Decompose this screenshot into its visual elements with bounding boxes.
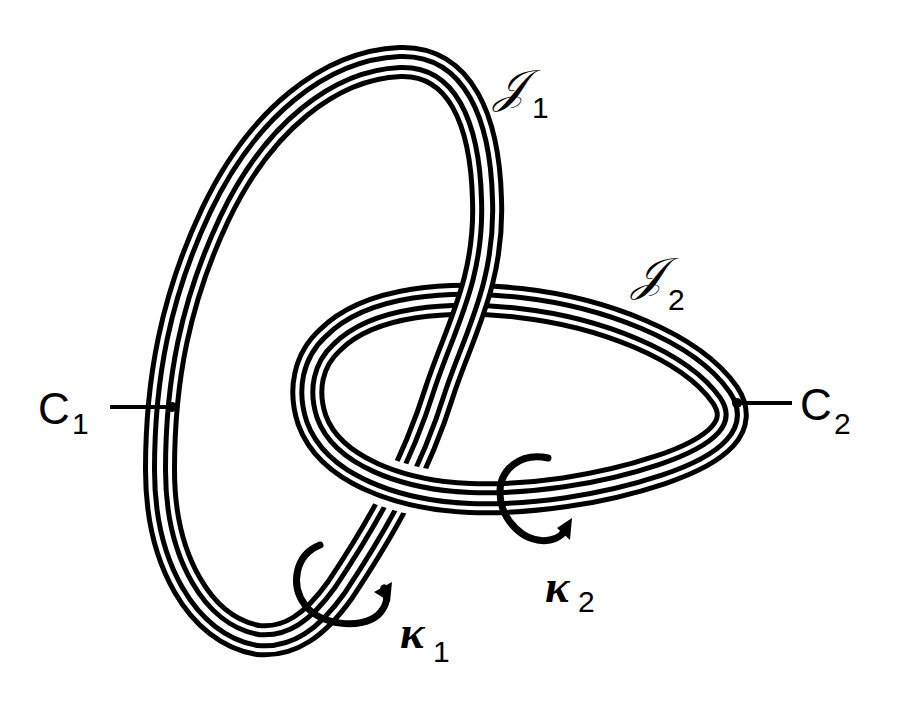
svg-text:κ: κ	[545, 561, 571, 612]
svg-text:2: 2	[578, 585, 595, 618]
svg-text:C: C	[800, 380, 832, 429]
label-j2: 𝒥 2	[630, 249, 685, 316]
svg-text:2: 2	[834, 407, 851, 440]
label-c1: C 1	[38, 384, 89, 440]
label-c2: C 2	[800, 380, 851, 440]
label-j1: 𝒥 1	[492, 61, 549, 124]
svg-text:2: 2	[668, 283, 685, 316]
label-kappa2: κ 2	[545, 561, 595, 618]
svg-text:κ: κ	[400, 607, 426, 658]
svg-text:1: 1	[433, 635, 450, 668]
svg-text:1: 1	[72, 407, 89, 440]
linked-tori-diagram: 𝒥 1 𝒥 2 C 1 C 2 κ 1 κ 2	[0, 0, 903, 701]
svg-text:C: C	[38, 384, 70, 433]
label-kappa1: κ 1	[400, 607, 450, 668]
svg-text:1: 1	[532, 91, 549, 124]
